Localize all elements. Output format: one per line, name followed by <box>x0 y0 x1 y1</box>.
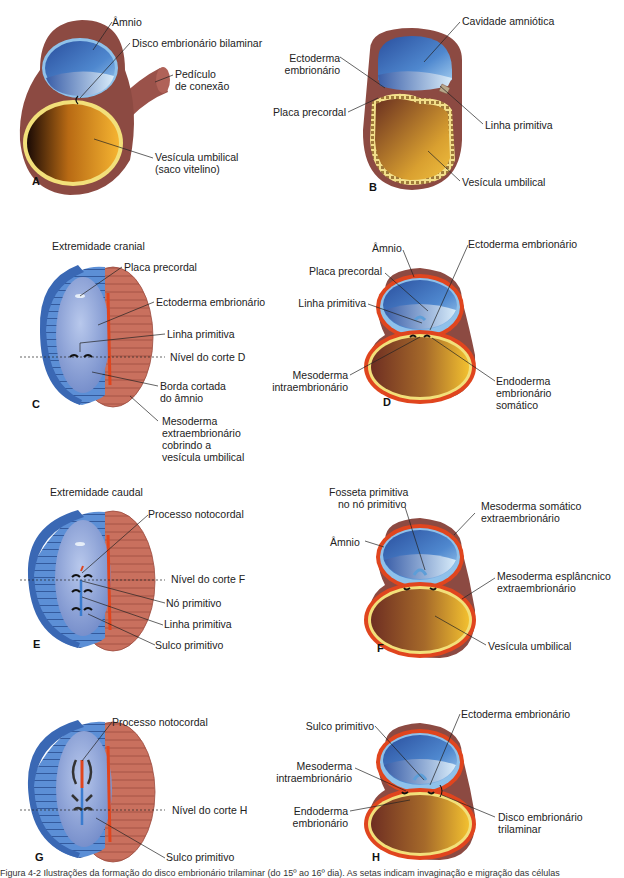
label-linha-primitiva: Linha primitiva <box>485 119 553 132</box>
label-placa-precordal: Placa precordal <box>124 261 197 274</box>
label-sulco-primitivo: Sulco primitivo <box>155 639 223 652</box>
label-linha-primitiva: Linha primitiva <box>290 297 366 310</box>
label-ectoderma-line1: Ectoderma <box>280 52 340 65</box>
label-amnio: Âmnio <box>112 16 142 29</box>
label-pediculo-line2: de conexão <box>175 80 229 93</box>
label-processo-notocordal: Processo notocordal <box>112 716 208 729</box>
label-mesoderma-somatico-line2: extraembrionário <box>481 512 560 525</box>
label-linha-primitiva: Linha primitiva <box>167 328 235 341</box>
panel-letter-b: B <box>369 181 377 193</box>
panel-e-illustration <box>28 510 155 651</box>
label-disco-bilaminar: Disco embrionário bilaminar <box>132 37 262 50</box>
panel-letter-d: D <box>383 396 391 408</box>
panel-letter-h: H <box>372 851 380 863</box>
label-mesoderma-line3: cobrindo a <box>162 439 211 452</box>
label-amnio: Âmnio <box>372 242 402 255</box>
panel-h-illustration <box>364 723 476 860</box>
panel-d-illustration <box>364 268 476 404</box>
label-disco-trilaminar-line2: trilaminar <box>498 823 541 836</box>
label-ectoderma-embrionario: Ectoderma embrionário <box>461 708 570 721</box>
label-nivel-corte-d: Nível do corte D <box>170 351 245 364</box>
panel-c-illustration <box>40 265 153 407</box>
heading-extremidade-cranial: Extremidade cranial <box>52 240 145 253</box>
label-endoderma-line1: Endoderma <box>262 805 348 818</box>
label-nivel-corte-f: Nível do corte F <box>171 573 245 586</box>
label-mesoderma-line2: intraembrionário <box>262 381 348 394</box>
heading-extremidade-caudal: Extremidade caudal <box>50 486 143 499</box>
label-sulco-primitivo: Sulco primitivo <box>166 851 234 864</box>
label-mesoderma-line1: Mesoderma <box>262 369 348 382</box>
panel-f-illustration <box>364 518 476 658</box>
label-endoderma-line3: somático <box>496 399 538 412</box>
label-mesoderma-line2: intraembrionário <box>262 772 352 785</box>
label-ectoderma-embrionario: Ectoderma embrionário <box>156 296 265 309</box>
label-pediculo-line1: Pedículo <box>175 68 216 81</box>
label-mesoderma-esplancnico-line2: extraembrionário <box>497 582 576 595</box>
figure-caption: Figura 4-2 Ilustrações da formação do di… <box>0 868 624 878</box>
label-disco-trilaminar-line1: Disco embrionário <box>498 811 583 824</box>
label-mesoderma-line1: Mesoderma <box>262 760 352 773</box>
panel-letter-e: E <box>33 638 40 650</box>
label-placa-precordal: Placa precordal <box>250 106 346 119</box>
label-vesicula-umbilical: Vesícula umbilical <box>488 640 571 653</box>
label-endoderma-line2: embrionário <box>262 817 348 830</box>
label-amnio: Âmnio <box>330 536 360 549</box>
label-ectoderma-embrionario: Ectoderma embrionário <box>468 238 577 251</box>
panel-letter-c: C <box>32 398 40 410</box>
label-processo-notocordal: Processo notocordal <box>148 508 244 521</box>
label-ectoderma-line2: embrionário <box>270 64 340 77</box>
label-mesoderma-line2: extraembrionário <box>162 427 241 440</box>
label-mesoderma-line1: Mesoderma <box>162 415 217 428</box>
label-mesoderma-esplancnico-line1: Mesoderma esplâncnico <box>497 570 611 583</box>
label-mesoderma-line4: vesícula umbilical <box>162 451 244 464</box>
panel-letter-a: A <box>32 175 40 187</box>
label-sulco-primitivo: Sulco primitivo <box>292 720 374 733</box>
label-linha-primitiva: Linha primitiva <box>164 618 232 631</box>
label-borda-line1: Borda cortada <box>160 380 226 393</box>
label-vesicula-line2: (saco vitelino) <box>155 163 220 176</box>
panel-letter-g: G <box>35 851 44 863</box>
label-mesoderma-somatico-line1: Mesoderma somático <box>481 500 581 513</box>
label-fosseta-line2: no nó primitivo <box>338 498 406 511</box>
panel-letter-f: F <box>377 642 384 654</box>
label-borda-line2: do âmnio <box>160 392 203 405</box>
label-endoderma-line1: Endoderma <box>496 375 550 388</box>
label-nivel-corte-h: Nível do corte H <box>172 804 247 817</box>
label-vesicula-umbilical: Vesícula umbilical <box>462 176 545 189</box>
label-placa-precordal: Placa precordal <box>292 265 382 278</box>
label-cavidade-amniotica: Cavidade amniótica <box>462 15 554 28</box>
label-vesicula-line1: Vesícula umbilical <box>155 151 238 164</box>
label-fosseta-line1: Fosseta primitiva <box>329 486 408 499</box>
panel-g-illustration <box>28 720 155 862</box>
label-endoderma-line2: embrionário <box>496 387 551 400</box>
embryo-diagram <box>0 0 624 878</box>
label-no-primitivo: Nó primitivo <box>166 597 221 610</box>
panel-b-illustration <box>363 28 462 190</box>
